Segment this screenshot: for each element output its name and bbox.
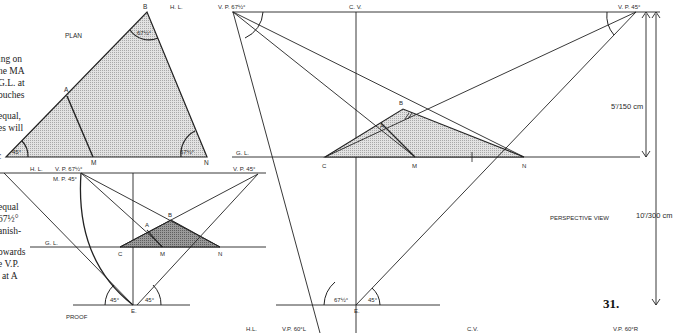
plan-point-a: A bbox=[64, 87, 68, 94]
perspective-construction bbox=[232, 12, 660, 333]
bottom-cv-label: C.V. bbox=[467, 326, 478, 332]
proof-point-m: M bbox=[160, 251, 165, 257]
plan-triangle bbox=[6, 12, 207, 157]
plan-point-b: B bbox=[143, 4, 147, 11]
perspective-gl-label: G. L. bbox=[236, 150, 249, 156]
bottom-vp-left-label: V.P. 60°L bbox=[282, 326, 306, 332]
perspective-angle-right: 45° bbox=[368, 297, 377, 303]
body-text-line: es will bbox=[0, 122, 23, 134]
proof-angle-right: 45° bbox=[145, 297, 154, 303]
perspective-vp-right-label: V. P. 45° bbox=[618, 4, 640, 10]
proof-title: PROOF bbox=[66, 314, 87, 320]
body-text-line: c bbox=[0, 150, 1, 162]
body-text-line: equal bbox=[0, 201, 19, 213]
proof-point-e: E. bbox=[131, 308, 137, 314]
plan-angle-n: 67½° bbox=[180, 149, 194, 155]
perspective-cv-label: C. V. bbox=[349, 4, 362, 10]
perspective-vp-left-label: V. P. 67½° bbox=[218, 4, 245, 10]
perspective-point-n: N bbox=[522, 163, 526, 169]
proof-angle-left: 45° bbox=[110, 297, 119, 303]
proof-gl-label: G. L. bbox=[45, 240, 58, 246]
station-distance-dimension: 10'/300 cm bbox=[636, 212, 672, 220]
body-text-line: ing on bbox=[0, 53, 22, 65]
plan-angle-b: 67½° bbox=[137, 30, 151, 36]
perspective-diagram-canvas bbox=[0, 0, 678, 333]
perspective-point-e: E. bbox=[354, 308, 360, 314]
body-text-line: 67½° bbox=[0, 213, 18, 225]
body-text-line: he MA bbox=[0, 65, 25, 77]
body-text-line: G.L. at bbox=[0, 77, 25, 89]
plan-point-n: N bbox=[204, 160, 209, 167]
proof-point-n: N bbox=[218, 251, 222, 257]
perspective-point-c: C bbox=[322, 163, 326, 169]
perspective-angle-left: 67½° bbox=[334, 297, 348, 303]
proof-point-a: A bbox=[145, 222, 149, 228]
proof-point-b: B bbox=[168, 212, 172, 218]
perspective-point-b: B bbox=[399, 100, 403, 106]
perspective-point-m: M bbox=[412, 163, 417, 169]
proof-construction bbox=[0, 173, 266, 305]
figure-number: 31. bbox=[603, 296, 619, 312]
proof-hl-label: H. L. bbox=[30, 166, 43, 172]
body-text-line: e V.P. bbox=[0, 258, 19, 270]
body-text-line: owards bbox=[0, 246, 25, 258]
eye-height-dimension: 5'/150 cm bbox=[611, 103, 643, 111]
bottom-hl-label: H.L. bbox=[246, 326, 257, 332]
perspective-title: PERSPECTIVE VIEW bbox=[550, 215, 609, 221]
proof-vp-left-label: V. P. 67½° bbox=[55, 166, 82, 172]
body-text-line: anish- bbox=[0, 225, 21, 237]
body-text-line: equal, bbox=[0, 110, 21, 122]
plan-title: PLAN bbox=[65, 33, 82, 40]
plan-angle-c: 45° bbox=[12, 149, 21, 155]
body-text-line: ouches bbox=[0, 89, 24, 101]
body-text-line: ' at A bbox=[0, 270, 18, 282]
proof-point-c: C bbox=[118, 251, 122, 257]
bottom-vp-right-label: V.P. 60°R bbox=[613, 326, 638, 332]
perspective-hl-label: H. L. bbox=[170, 4, 183, 10]
proof-mp-label: M. P. 45° bbox=[53, 176, 77, 182]
plan-point-m: M bbox=[91, 160, 96, 167]
perspective-point-a: A bbox=[380, 123, 384, 129]
proof-vp-right-label: V. P. 45° bbox=[233, 166, 255, 172]
